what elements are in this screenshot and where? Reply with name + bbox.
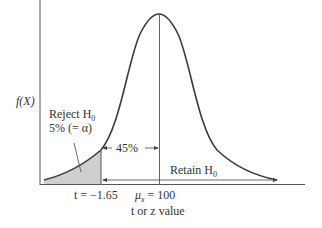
y-axis-label: f(X) (16, 95, 35, 108)
mean-value-text: = 100 (145, 188, 176, 202)
reject-text: Reject H (49, 107, 91, 121)
rejection-region (44, 150, 101, 184)
alpha-label: 5% (= α) (49, 122, 92, 135)
retain-label: Retain H0 (170, 164, 217, 181)
alpha-text: 5% (= α) (49, 121, 92, 135)
y-axis-text: f(X) (16, 94, 35, 108)
critical-value-text: t = −1.65 (74, 188, 118, 202)
retain-sub: 0 (213, 170, 217, 179)
between-pct-text: 45% (116, 141, 138, 155)
arrowhead-left-icon (102, 178, 107, 182)
x-axis-label: t or z value (131, 205, 185, 218)
retain-text: Retain H (170, 163, 213, 177)
arrowhead-right-icon (154, 146, 159, 150)
arrowhead-right-icon (273, 178, 278, 182)
normal-curve (44, 14, 277, 180)
between-pct-label: 45% (116, 142, 138, 155)
x-axis-text: t or z value (131, 204, 185, 218)
critical-value-label: t = −1.65 (74, 189, 118, 202)
